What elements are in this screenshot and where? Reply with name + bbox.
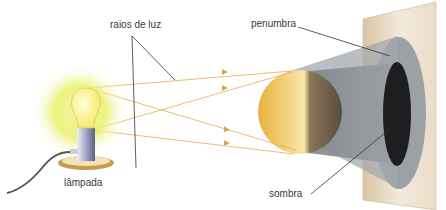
- label-light-rays: raios de luz: [110, 19, 161, 30]
- label-umbra: sombra: [269, 188, 302, 199]
- label-lamp: lâmpada: [64, 177, 102, 188]
- ray-arrowheads: [222, 69, 230, 146]
- label-penumbra: penumbra: [251, 18, 296, 29]
- umbra-region: [383, 62, 411, 166]
- power-cord-icon: [7, 152, 70, 193]
- shadow-diagram: raios de luz penumbra sombra lâmpada: [0, 0, 446, 210]
- sphere: [258, 70, 342, 154]
